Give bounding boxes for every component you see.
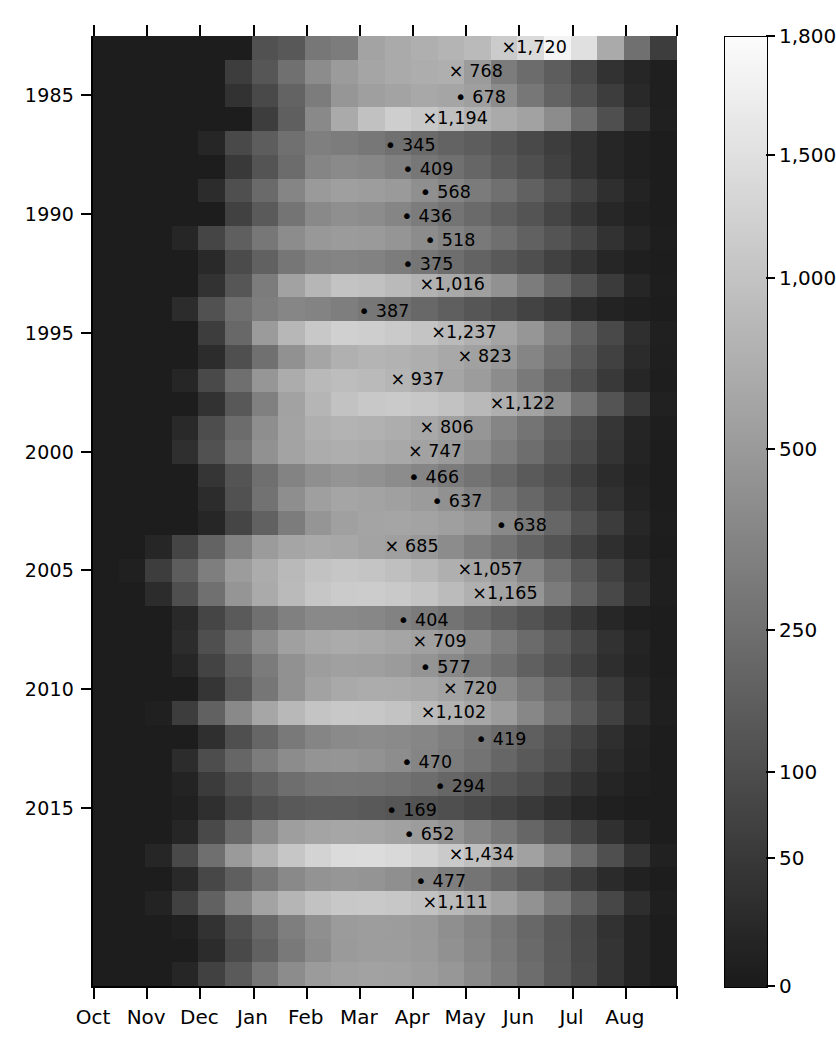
heatmap-cell [225, 915, 253, 940]
heatmap-cell [119, 891, 147, 916]
heatmap-cell [198, 250, 226, 275]
heatmap-cell [411, 559, 439, 584]
heatmap-cell [411, 915, 439, 940]
heatmap-cell [385, 582, 413, 607]
heatmap-cell [544, 131, 572, 156]
heatmap-cell [252, 416, 280, 441]
data-label: × 768 [449, 63, 503, 81]
heatmap-cell [331, 939, 359, 964]
heatmap-cell [172, 749, 200, 774]
heatmap-cell [278, 416, 306, 441]
heatmap-cell [198, 749, 226, 774]
heatmap-cell [358, 321, 386, 346]
heatmap-cell [544, 820, 572, 845]
heatmap-cell [491, 701, 519, 726]
heatmap-cell [411, 677, 439, 702]
heatmap-cell [650, 60, 677, 85]
heatmap-cell [331, 962, 359, 986]
cross-marker-icon: × [413, 631, 428, 651]
heatmap-cell [198, 226, 226, 251]
heatmap-cell [305, 559, 333, 584]
heatmap-cell [624, 962, 652, 986]
heatmap-cell [571, 962, 599, 986]
heatmap-cell [198, 321, 226, 346]
heatmap-cell [571, 535, 599, 560]
heatmap-cell [145, 226, 173, 251]
heatmap-cell [145, 630, 173, 655]
heatmap-cell [198, 274, 226, 299]
heatmap-cell [411, 345, 439, 370]
heatmap-cell [278, 559, 306, 584]
heatmap-cell [119, 630, 147, 655]
heatmap-cell [597, 440, 625, 465]
heatmap-cell [650, 511, 677, 536]
heatmap-cell [172, 725, 200, 750]
heatmap-cell [624, 820, 652, 845]
heatmap-cell [624, 416, 652, 441]
heatmap-cell [358, 725, 386, 750]
heatmap-cell [358, 345, 386, 370]
heatmap-cell [252, 582, 280, 607]
data-label: • 375 [402, 253, 453, 274]
heatmap-cell [225, 202, 253, 227]
dot-marker-icon: • [475, 727, 487, 751]
cross-marker-icon: × [458, 346, 473, 366]
heatmap-cell [305, 606, 333, 631]
heatmap-cell [252, 369, 280, 394]
heatmap-cell [491, 915, 519, 940]
data-label: × 937 [390, 371, 444, 389]
heatmap-cell [145, 915, 173, 940]
heatmap-cell [624, 131, 652, 156]
heatmap-cell [464, 369, 492, 394]
heatmap-cell [385, 179, 413, 204]
heatmap-cell [331, 582, 359, 607]
heatmap-cell [198, 60, 226, 85]
heatmap-cell [385, 844, 413, 869]
heatmap-cell [225, 677, 253, 702]
data-label-value: 823 [472, 346, 511, 366]
dot-marker-icon: • [415, 869, 427, 893]
heatmap-cell [305, 226, 333, 251]
heatmap-cell [517, 84, 545, 109]
heatmap-cell [385, 392, 413, 417]
heatmap-cell [92, 202, 120, 227]
heatmap-cell [385, 107, 413, 132]
heatmap-cell [650, 962, 677, 986]
data-label-value: 652 [415, 824, 454, 844]
heatmap-cell [119, 654, 147, 679]
heatmap-cell [198, 962, 226, 986]
heatmap-cell [650, 297, 677, 322]
heatmap-cell [624, 155, 652, 180]
heatmap-cell [517, 297, 545, 322]
heatmap-cell [145, 107, 173, 132]
heatmap-cell [491, 606, 519, 631]
heatmap-cell [119, 107, 147, 132]
heatmap-cell [172, 440, 200, 465]
heatmap-cell [278, 60, 306, 85]
heatmap-cell [544, 962, 572, 986]
data-label-value: 768 [464, 61, 503, 81]
heatmap-cell [198, 796, 226, 821]
heatmap-cell [358, 606, 386, 631]
heatmap-cell [92, 867, 120, 892]
data-label-value: 1,016 [434, 274, 485, 294]
heatmap-cell [464, 535, 492, 560]
heatmap-cell [491, 962, 519, 986]
heatmap-cell [331, 416, 359, 441]
heatmap-cell [172, 226, 200, 251]
heatmap-cell [145, 677, 173, 702]
heatmap-cell [145, 939, 173, 964]
dot-marker-icon: • [386, 798, 398, 822]
heatmap-cell [172, 464, 200, 489]
heatmap-cell [305, 511, 333, 536]
heatmap-cell [172, 155, 200, 180]
heatmap-cell [358, 369, 386, 394]
heatmap-cell [624, 487, 652, 512]
colorbar-tick-label: 1,800 [779, 24, 836, 48]
heatmap-cell [571, 369, 599, 394]
heatmap-cell [278, 226, 306, 251]
data-label-value: 1,434 [464, 844, 515, 864]
heatmap-cell [278, 701, 306, 726]
heatmap-cell [438, 535, 466, 560]
x-axis-top-tick [412, 25, 414, 36]
